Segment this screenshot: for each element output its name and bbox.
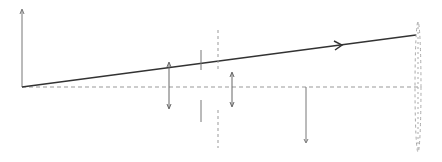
- down-arrow: [304, 87, 308, 143]
- double-arrow-right: [230, 72, 234, 107]
- diagram-canvas: [0, 0, 442, 162]
- diagram-svg: [0, 0, 442, 162]
- double-arrow-left: [167, 62, 171, 109]
- y-axis: [20, 9, 24, 87]
- main-vector: [22, 35, 416, 87]
